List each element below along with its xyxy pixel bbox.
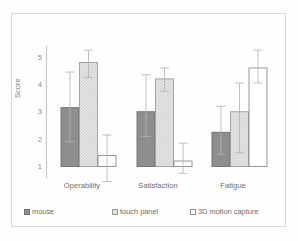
y-tick-4: 4 [30,80,42,89]
y-tick-5: 5 [30,53,42,62]
x-category-satisfaction: Satisfaction [123,181,193,190]
bars-layer [61,62,267,166]
y-tick-1: 1 [30,162,42,171]
y-tick-2: 2 [30,135,42,144]
legend-item-touch-panel: touch panel [112,207,158,216]
x-category-fatigue: Fatigue [198,181,268,190]
y-tick-3: 3 [30,107,42,116]
legend-swatch-3d-motion-capture-icon [190,209,196,215]
bar-touch-panel-satisfaction [156,79,174,167]
legend-label-mouse: mouse [32,207,54,216]
bar-chart-canvas [0,0,298,241]
bar-touch-panel-operability [80,62,98,166]
legend-swatch-touch-panel-icon [112,209,118,215]
error-bar-3D-motion-capture-satisfaction [179,143,188,173]
legend-label-3d-motion-capture: 3D motion capture [198,207,258,216]
legend-item-3d-motion-capture: 3D motion capture [190,207,258,216]
legend-swatch-mouse-icon [24,209,30,215]
legend-label-touch-panel: touch panel [120,207,158,216]
y-axis-title: Score [13,78,22,98]
x-category-operability: Operability [47,181,117,190]
chart-legend: mouse touch panel 3D motion capture [24,207,274,221]
legend-item-mouse: mouse [24,207,54,216]
